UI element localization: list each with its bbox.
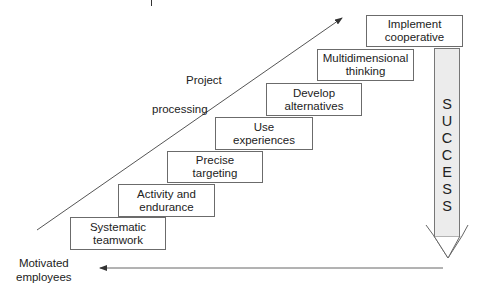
success-letter: U: [442, 113, 452, 130]
step-develop-alternatives: Develop alternatives: [266, 83, 362, 116]
step-label: Implement: [388, 18, 442, 31]
processing-label: processing: [152, 102, 208, 116]
step-label: Use: [254, 121, 274, 134]
step-label: Precise: [196, 154, 234, 167]
success-letter: E: [442, 164, 452, 181]
step-label: cooperative: [385, 31, 444, 44]
step-label: Develop: [293, 87, 335, 100]
step-label: targeting: [193, 167, 238, 180]
success-letter: S: [442, 198, 452, 215]
project-label: Project: [186, 73, 222, 87]
success-letter: C: [442, 147, 452, 164]
success-letter: S: [442, 181, 452, 198]
success-letter: C: [442, 130, 452, 147]
motivated-employees-label: Motivated employees: [16, 256, 72, 284]
step-label: Multidimensional: [323, 52, 409, 65]
step-label: Systematic: [90, 221, 146, 234]
success-arrow: S U C C E S S: [434, 48, 460, 236]
step-multidimensional-thinking: Multidimensional thinking: [317, 49, 414, 81]
step-activity-endurance: Activity and endurance: [118, 184, 215, 217]
step-use-experiences: Use experiences: [215, 117, 313, 150]
step-label: teamwork: [93, 234, 143, 247]
step-precise-targeting: Precise targeting: [167, 151, 263, 183]
step-label: Activity and: [137, 188, 196, 201]
step-label: experiences: [233, 134, 295, 147]
step-implement-cooperative: Implement cooperative: [366, 15, 463, 47]
step-systematic-teamwork: Systematic teamwork: [70, 217, 166, 250]
success-letter: S: [442, 96, 452, 113]
step-label: thinking: [346, 65, 386, 78]
step-label: alternatives: [285, 100, 344, 113]
label-line: employees: [16, 270, 72, 284]
step-label: endurance: [139, 201, 193, 214]
label-line: Motivated: [16, 256, 72, 270]
